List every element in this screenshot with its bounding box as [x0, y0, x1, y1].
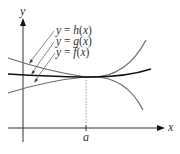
label-f-eq: = [61, 46, 73, 58]
tick-label-a: a [83, 130, 89, 144]
x-axis-arrow-icon [157, 125, 165, 131]
label-f-close: ) [86, 46, 90, 59]
curve-f [8, 77, 143, 110]
label-f: y = f(x) [55, 46, 90, 59]
y-axis-arrow-icon [20, 18, 26, 26]
x-axis-label: x [167, 120, 174, 134]
diagram-canvas: y x a y = h(x) y = g(x) y = f(x) [0, 0, 180, 154]
y-axis-label: y [19, 4, 26, 18]
leader-g-arrow-icon [31, 70, 35, 75]
leader-h-arrow-icon [29, 59, 33, 64]
leader-f-arrow-icon [34, 78, 38, 83]
